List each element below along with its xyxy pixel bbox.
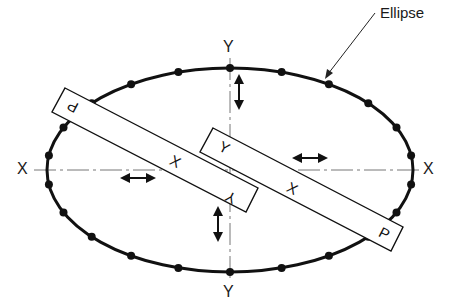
ellipse-callout-leader [325, 13, 375, 79]
y-axis-top-label: Y [223, 38, 234, 56]
x-axis-right-label: X [423, 160, 434, 178]
ellipse-callout-label: Ellipse [380, 4, 424, 21]
ellipse-point [325, 80, 333, 88]
ellipse-point [88, 233, 96, 241]
ellipse-point [278, 264, 286, 272]
ellipse-point [393, 124, 401, 132]
ellipse-point [226, 64, 234, 72]
ellipse-point [127, 80, 135, 88]
y-slider-upper-double-arrow-icon [234, 74, 244, 110]
y-slider-lower-double-arrow-icon [213, 206, 223, 242]
ellipse-point [325, 252, 333, 260]
ellipse-point [45, 152, 53, 160]
x-slider-left-double-arrow-icon [120, 173, 156, 183]
axes [34, 58, 420, 282]
ellipse-point [364, 99, 372, 107]
ellipse-point [60, 124, 68, 132]
ellipse-point [174, 264, 182, 272]
x-slider-right-double-arrow-icon [292, 153, 328, 163]
ellipse-point [407, 152, 415, 160]
ellipse-point [127, 252, 135, 260]
ellipse-point [174, 68, 182, 76]
x-axis-left-label: X [17, 160, 28, 178]
ellipse-point [226, 268, 234, 276]
ellipse-point [393, 208, 401, 216]
ellipse-point [278, 68, 286, 76]
y-axis-bottom-label: Y [223, 283, 234, 301]
ellipse-point [45, 181, 53, 189]
ellipse-point [60, 208, 68, 216]
ellipse-point [407, 181, 415, 189]
